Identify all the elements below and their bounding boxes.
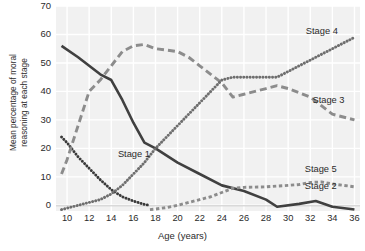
x-axis-tick-label: 12 xyxy=(78,214,100,223)
series-label-stage-2: Stage 2 xyxy=(305,182,337,191)
series-label-stage-4: Stage 4 xyxy=(306,27,338,36)
y-axis-tick-label: 70 xyxy=(31,1,51,11)
y-axis-tick-label: 60 xyxy=(31,29,51,39)
y-axis-title: Mean percentage of moral reasoning at ea… xyxy=(0,0,32,225)
x-axis-tick-label: 14 xyxy=(100,214,122,223)
y-axis-tick-label: 40 xyxy=(31,86,51,96)
y-axis-tick-label: 20 xyxy=(31,143,51,153)
series-label-stage-1: Stage 1 xyxy=(118,150,150,159)
x-axis-tick-label: 34 xyxy=(321,214,343,223)
series-label-stage-5: Stage 5 xyxy=(305,165,337,174)
x-axis-tick-label: 30 xyxy=(277,214,299,223)
y-axis-tick-label: 0 xyxy=(31,200,51,210)
x-axis-tick-labels: 1012141618202224262830323436 xyxy=(0,214,365,228)
x-axis-tick-label: 16 xyxy=(122,214,144,223)
x-axis-tick-label: 32 xyxy=(299,214,321,223)
x-axis-title: Age (years) xyxy=(0,230,365,241)
x-axis-tick-label: 18 xyxy=(144,214,166,223)
y-axis-title-line-1: Mean percentage of moral xyxy=(8,54,18,151)
x-axis-tick-label: 24 xyxy=(211,214,233,223)
x-axis-tick-label: 28 xyxy=(255,214,277,223)
x-axis-tick-label: 36 xyxy=(343,214,365,223)
y-axis-tick-label: 30 xyxy=(31,115,51,125)
x-axis-tick-label: 20 xyxy=(167,214,189,223)
x-axis-tick-label: 22 xyxy=(189,214,211,223)
y-axis-title-line-2: reasoning at each stage xyxy=(18,58,28,147)
x-axis-tick-label: 10 xyxy=(56,214,78,223)
y-axis-tick-label: 10 xyxy=(31,172,51,182)
y-axis-tick-label: 50 xyxy=(31,58,51,68)
series-label-stage-3: Stage 3 xyxy=(312,96,344,105)
moral-reasoning-line-chart: Mean percentage of moral reasoning at ea… xyxy=(0,0,365,251)
x-axis-tick-label: 26 xyxy=(233,214,255,223)
